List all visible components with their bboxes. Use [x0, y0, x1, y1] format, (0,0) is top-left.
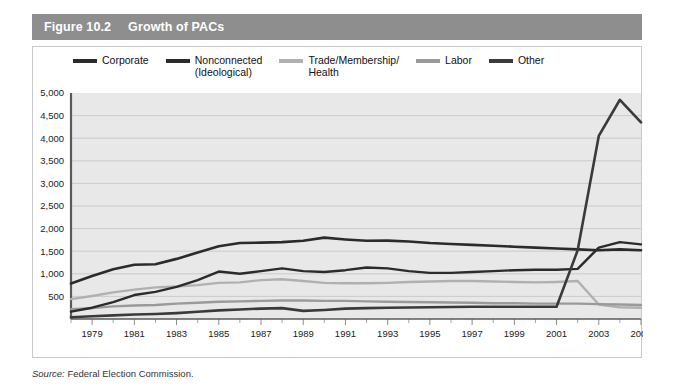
line-chart-svg: 5001,0001,5002,0002,5003,0003,5004,0004,…: [33, 47, 643, 359]
y-axis-tick-label: 4,500: [40, 110, 64, 121]
y-axis-tick-label: 4,000: [40, 133, 64, 144]
x-axis-tick-label: 1981: [124, 328, 145, 339]
y-axis-tick-label: 3,000: [40, 178, 64, 189]
x-axis-tick-label: 1997: [462, 328, 483, 339]
x-axis-tick-label: 1989: [293, 328, 314, 339]
figure-header-bar: Figure 10.2 Growth of PACs: [32, 14, 642, 40]
figure-root: Figure 10.2 Growth of PACs CorporateNonc…: [0, 0, 684, 391]
x-axis-tick-label: 1983: [166, 328, 187, 339]
x-axis-tick-label: 2003: [588, 328, 609, 339]
y-axis-tick-label: 1,000: [40, 268, 64, 279]
y-axis-tick-label: 2,500: [40, 200, 64, 211]
plot-area-wrapper: 5001,0001,5002,0002,5003,0003,5004,0004,…: [33, 47, 643, 359]
x-axis-tick-label: 1993: [377, 328, 398, 339]
y-axis-tick-label: 2,000: [40, 223, 64, 234]
chart-panel: CorporateNonconnected (Ideological)Trade…: [32, 46, 642, 358]
source-text: Federal Election Commission.: [65, 368, 194, 379]
figure-title: Growth of PACs: [128, 20, 224, 34]
x-axis-tick-label: 1995: [419, 328, 440, 339]
y-axis-tick-label: 3,500: [40, 155, 64, 166]
y-axis-tick-label: 500: [48, 291, 64, 302]
x-axis-tick-label: 1987: [250, 328, 271, 339]
x-axis-tick-label: 2005: [630, 328, 643, 339]
source-label: Source:: [32, 368, 65, 379]
source-note: Source: Federal Election Commission.: [32, 368, 194, 379]
y-axis-tick-label: 5,000: [40, 87, 64, 98]
y-axis-tick-label: 1,500: [40, 246, 64, 257]
x-axis-tick-label: 1991: [335, 328, 356, 339]
figure-number: Figure 10.2: [44, 20, 111, 34]
x-axis-tick-label: 1979: [82, 328, 103, 339]
x-axis-tick-label: 1999: [504, 328, 525, 339]
x-axis-tick-label: 1985: [208, 328, 229, 339]
x-axis-tick-label: 2001: [546, 328, 567, 339]
